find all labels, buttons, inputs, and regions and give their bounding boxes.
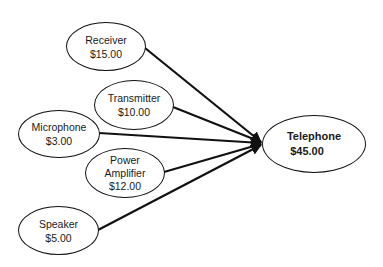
node-receiver-cost: $15.00 (90, 47, 122, 61)
node-speaker-label: Speaker (39, 217, 78, 231)
node-telephone: Telephone $45.00 (262, 115, 366, 173)
node-power-amplifier-label-line2: Amplifier (105, 167, 146, 180)
node-speaker: Speaker $5.00 (18, 206, 99, 255)
edge-power-amplifier-to-telephone (164, 144, 261, 172)
node-power-amplifier-label-line1: Power (110, 154, 140, 167)
node-microphone-label: Microphone (32, 120, 87, 134)
node-transmitter: Transmitter $10.00 (94, 80, 174, 130)
diagram-canvas: Receiver $15.00 Transmitter $10.00 Micro… (0, 0, 383, 267)
node-microphone-cost: $3.00 (46, 134, 72, 148)
node-receiver-label: Receiver (85, 33, 126, 47)
node-telephone-label: Telephone (287, 129, 341, 144)
node-power-amplifier: Power Amplifier $12.00 (85, 148, 165, 198)
node-speaker-cost: $5.00 (45, 231, 71, 245)
edge-transmitter-to-telephone (173, 107, 261, 142)
node-transmitter-label: Transmitter (108, 91, 161, 105)
node-transmitter-cost: $10.00 (118, 105, 150, 119)
edge-microphone-to-telephone (99, 133, 261, 143)
node-receiver: Receiver $15.00 (66, 22, 146, 71)
node-telephone-cost: $45.00 (290, 144, 324, 159)
node-microphone: Microphone $3.00 (18, 110, 100, 158)
node-power-amplifier-cost: $12.00 (109, 180, 141, 193)
